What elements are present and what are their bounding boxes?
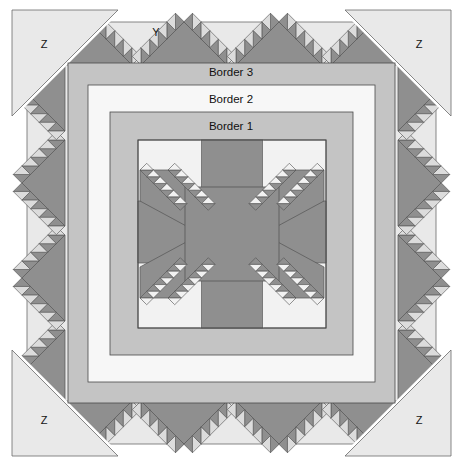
corner-label-bottom-right: Z bbox=[416, 414, 423, 426]
border-1-label: Border 1 bbox=[209, 120, 253, 132]
corner-label-bottom-left: Z bbox=[41, 414, 48, 426]
sawtooth-label-y: Y bbox=[152, 26, 160, 38]
center-star-block bbox=[138, 140, 326, 328]
corner-label-top-right: Z bbox=[416, 38, 423, 50]
quilt-diagram: Z Z Z Z Y Bor bbox=[0, 0, 463, 466]
border-3-label: Border 3 bbox=[209, 66, 253, 78]
quilt-diagram-svg: Z Z Z Z Y Bor bbox=[0, 0, 463, 466]
corner-label-top-left: Z bbox=[41, 38, 48, 50]
border-2-label: Border 2 bbox=[209, 93, 253, 105]
